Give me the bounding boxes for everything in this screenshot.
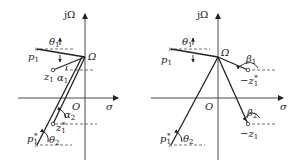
right-origin-label: O — [205, 101, 213, 112]
right-beta2-label: β2 — [246, 107, 257, 120]
right-zero-z1-marker — [246, 122, 250, 126]
left-horizontal-axis-label: σ — [106, 101, 114, 112]
right-vector-p1 — [171, 49, 218, 57]
right-theta2-arc — [178, 133, 182, 142]
right-beta1-label: β1 — [245, 53, 256, 66]
right-p1-label: p1 — [161, 54, 172, 67]
right-theta2-label: θ2 — [183, 133, 194, 146]
right-vector-z1 — [218, 57, 248, 124]
right-horizontal-axis-label: σ — [280, 101, 288, 112]
right-p1conj-label: p1* — [160, 132, 171, 146]
left-p1conj-label: p1* — [27, 132, 38, 146]
left-omega-label: Ω — [87, 51, 96, 62]
right-vertical-axis-label: jΩ — [196, 9, 208, 20]
left-zero-z1-marker — [51, 68, 55, 72]
left-vector-p1 — [37, 49, 85, 57]
left-theta1-label: θ1 — [49, 36, 60, 49]
left-vertical-axis-label: jΩ — [63, 9, 75, 20]
left-z1-label: z1 — [43, 71, 54, 84]
right-z1conj-label: −z1* — [240, 74, 258, 88]
left-z1conj-label: z1* — [55, 121, 66, 135]
right-omega-label: Ω — [220, 47, 229, 58]
left-zero-z1conj-marker — [51, 122, 55, 126]
left-pole-zero-diagram: × × jΩ σ O Ω p1 p1* z1 z1* θ1 α1 α2 θ2 — [18, 9, 118, 160]
left-pole-p1-marker: × — [34, 45, 39, 54]
right-zero-z1conj-marker — [246, 68, 250, 72]
left-alpha1-label: α1 — [57, 72, 68, 85]
left-origin-label: O — [72, 101, 80, 112]
right-pole-p1-marker: × — [168, 45, 173, 54]
right-theta1-label: θ1 — [182, 36, 193, 49]
left-theta2-arc — [44, 132, 48, 142]
left-alpha1-arc — [66, 66, 67, 70]
right-pole-zero-diagram: × × jΩ σ O Ω p1 p1* −z1* −z1 θ1 β1 β2 θ2 — [151, 9, 288, 160]
right-z1-label: −z1 — [240, 128, 258, 141]
